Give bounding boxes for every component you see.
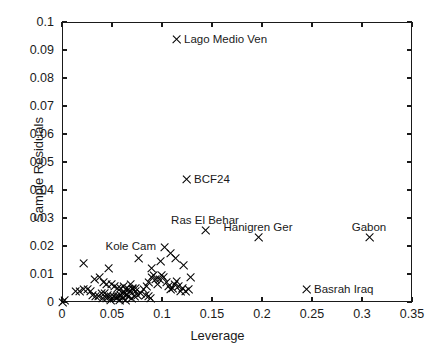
y-axis-tick	[62, 273, 67, 274]
y-axis-tick	[62, 133, 67, 134]
x-axis-tick-label: 0.05	[100, 308, 124, 321]
y-axis-tick	[407, 273, 412, 274]
x-axis-tick	[111, 22, 112, 27]
y-axis-tick	[407, 217, 412, 218]
x-axis-tick	[261, 297, 262, 302]
y-axis-tick	[62, 105, 67, 106]
y-axis-tick	[407, 189, 412, 190]
y-axis-tick	[62, 217, 67, 218]
x-axis-tick-label: 0.2	[253, 308, 270, 321]
x-axis-tick	[211, 22, 212, 27]
x-axis-tick	[261, 22, 262, 27]
x-axis-tick-label: 0.35	[400, 308, 424, 321]
x-axis-tick	[61, 22, 62, 27]
y-axis-tick	[407, 77, 412, 78]
y-axis-label: Sample Residuals	[31, 70, 46, 270]
x-axis-tick	[211, 297, 212, 302]
x-axis-label: Leverage	[0, 328, 435, 343]
y-axis-tick	[62, 161, 67, 162]
scatter-plot-figure: 00.050.10.150.20.250.30.3500.010.020.030…	[0, 0, 435, 353]
y-axis-tick	[62, 49, 67, 50]
y-axis-tick	[407, 105, 412, 106]
x-axis-tick-label: 0.3	[353, 308, 370, 321]
y-axis-tick	[407, 161, 412, 162]
x-axis-tick	[111, 297, 112, 302]
x-axis-tick	[361, 22, 362, 27]
y-axis-tick-label: 0.1	[14, 16, 54, 29]
x-axis-tick	[311, 297, 312, 302]
y-axis-tick	[62, 21, 67, 22]
y-axis-tick-label: 0.01	[14, 268, 54, 281]
x-axis-tick-label: 0	[59, 308, 66, 321]
x-axis-tick	[161, 297, 162, 302]
y-axis-tick	[62, 301, 67, 302]
x-axis-tick-label: 0.25	[300, 308, 324, 321]
x-axis-tick	[411, 22, 412, 27]
x-axis-tick	[311, 22, 312, 27]
point-label-kole-cam: Kole Cam	[106, 241, 157, 253]
y-axis-tick	[62, 189, 67, 190]
x-axis-tick	[361, 297, 362, 302]
plot-area	[62, 22, 412, 302]
point-label-bcf24: BCF24	[194, 174, 230, 186]
point-label-basrah-iraq: Basrah Iraq	[314, 284, 373, 296]
y-axis-tick	[407, 133, 412, 134]
x-axis-tick-label: 0.15	[200, 308, 224, 321]
point-label-lago-medio-ven: Lago Medio Ven	[184, 34, 267, 46]
x-axis-tick-label: 0.1	[153, 308, 170, 321]
y-axis-tick-label: 0.09	[14, 44, 54, 57]
y-axis-tick	[62, 77, 67, 78]
point-label-gabon: Gabon	[352, 222, 387, 234]
y-axis-tick-label: 0	[14, 296, 54, 309]
y-axis-tick	[407, 245, 412, 246]
point-label-hanigren-ger: Hanigren Ger	[223, 222, 292, 234]
y-axis-tick	[407, 49, 412, 50]
y-axis-tick	[407, 301, 412, 302]
x-axis-tick	[161, 22, 162, 27]
y-axis-tick	[407, 21, 412, 22]
y-axis-tick	[62, 245, 67, 246]
